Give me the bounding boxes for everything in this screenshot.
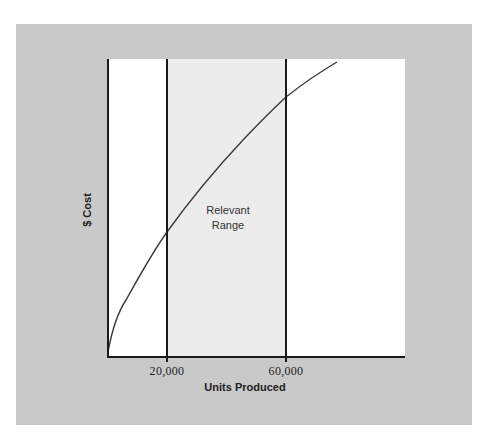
x-tick-60000: 60,000 [269, 364, 304, 379]
relevant-range-label-line1: Relevant [206, 203, 249, 218]
x-axis-title: Units Produced [204, 381, 285, 393]
x-tick-20000: 20,000 [150, 364, 185, 379]
y-axis-title: $ Cost [81, 193, 93, 227]
relevant-range-label: Relevant Range [206, 203, 249, 233]
relevant-range-label-line2: Range [206, 218, 249, 233]
